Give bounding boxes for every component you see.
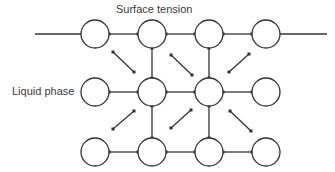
molecule-circle-r1-c2 [195,78,223,106]
molecule-circle-r2-c2 [195,138,223,166]
diagonal-force-arrow [230,111,251,131]
molecule-circle-r0-c3 [252,20,280,48]
intermolecular-bonds [109,34,252,152]
molecule-circle-r1-c3 [252,78,280,106]
molecules [81,20,280,166]
surface-tension-label: Surface tension [116,3,192,16]
diagonal-force-arrow [113,111,134,129]
molecule-circle-r2-c0 [81,138,109,166]
molecule-circle-r0-c0 [81,20,109,48]
molecule-circle-r1-c0 [81,78,109,106]
surface-tension-diagram: Surface tension Liquid phase [0,0,335,172]
molecule-circle-r0-c1 [138,20,166,48]
molecule-circle-r1-c1 [138,78,166,106]
diagonal-force-arrow [229,54,249,72]
molecule-circle-r2-c1 [138,138,166,166]
molecule-circle-r2-c3 [252,138,280,166]
molecule-circle-r0-c2 [195,20,223,48]
diagonal-force-arrow [113,52,134,72]
diagonal-force-arrow [171,55,192,75]
liquid-phase-label: Liquid phase [12,85,74,98]
diagonal-force-arrow [171,110,191,128]
